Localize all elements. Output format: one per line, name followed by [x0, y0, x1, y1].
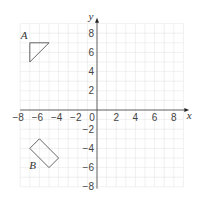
y-tick-label: 4: [88, 66, 94, 77]
y-tick-label: 8: [88, 28, 94, 39]
x-tick-label: −2: [70, 112, 82, 123]
axes: xy: [20, 10, 192, 189]
y-tick-label: −2: [83, 124, 95, 135]
shape-b-label: B: [29, 159, 36, 171]
x-tick-label: 2: [113, 112, 119, 123]
shape-a-label: A: [20, 29, 28, 41]
y-axis-arrow-icon: [95, 18, 99, 23]
y-axis-label: y: [88, 10, 94, 22]
coordinate-grid-diagram: xy −8−6−4−2024688642−2−4−6−8 AB: [0, 0, 205, 205]
y-tick-label: −8: [83, 181, 95, 192]
y-tick-label: −6: [83, 162, 95, 173]
x-tick-label: −8: [12, 112, 24, 123]
grid-lines: [20, 24, 183, 187]
y-tick-label: 6: [88, 47, 94, 58]
x-tick-label: 4: [133, 112, 139, 123]
x-tick-label: 8: [171, 112, 177, 123]
x-tick-label: 6: [152, 112, 158, 123]
x-tick-label: 0: [89, 112, 95, 123]
y-tick-label: 2: [88, 85, 94, 96]
x-axis-label: x: [186, 109, 192, 121]
y-tick-label: −4: [83, 143, 95, 154]
x-tick-label: −4: [51, 112, 63, 123]
x-tick-label: −6: [32, 112, 44, 123]
